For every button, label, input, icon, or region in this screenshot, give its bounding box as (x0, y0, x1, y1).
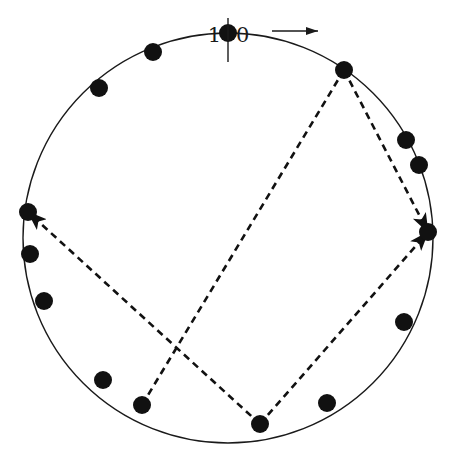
figure-canvas: 1 0 (0, 0, 454, 453)
circle-node (144, 43, 162, 61)
circle-node (94, 371, 112, 389)
circle-node (419, 223, 437, 241)
dashed-path-group (28, 70, 428, 424)
circle-node (251, 415, 269, 433)
circle-node (410, 156, 428, 174)
circle-node (35, 292, 53, 310)
circle-node (318, 394, 336, 412)
dashed-edge (142, 70, 344, 405)
circle-node (335, 61, 353, 79)
dashed-edge (28, 212, 260, 424)
node-group (19, 24, 437, 433)
label-zero: 0 (236, 23, 249, 47)
outer-circle-group (23, 33, 433, 443)
circle-node (19, 203, 37, 221)
circle-node (21, 245, 39, 263)
outer-circle (23, 33, 433, 443)
circle-node (397, 131, 415, 149)
circle-node (90, 79, 108, 97)
circle-node (395, 313, 413, 331)
circle-node (133, 396, 151, 414)
dashed-edge (344, 70, 428, 232)
label-one: 1 (208, 23, 221, 47)
circle-diagram-svg: 1 0 (0, 0, 454, 453)
